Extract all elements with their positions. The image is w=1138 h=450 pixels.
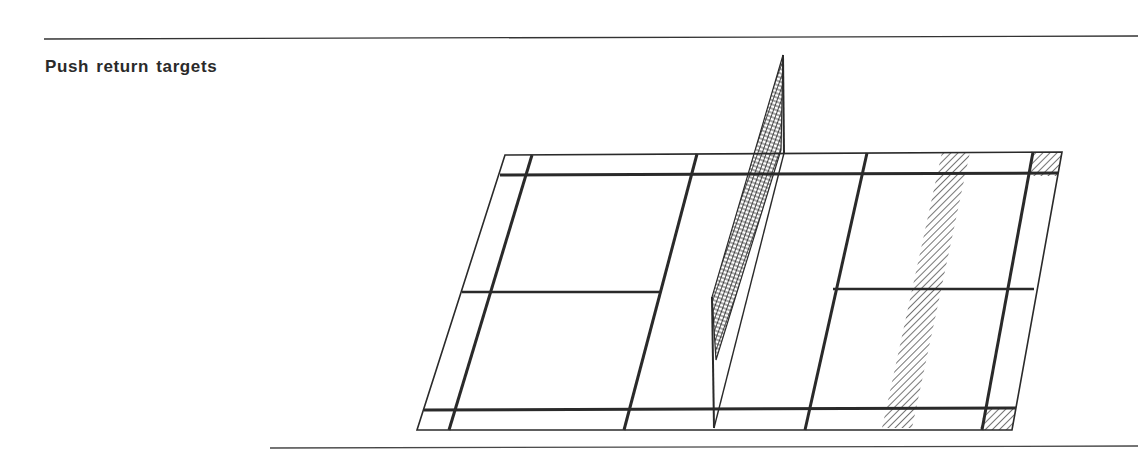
long-service-line-bottom xyxy=(424,408,1016,410)
short-service-line-right xyxy=(805,153,867,430)
net-mesh xyxy=(712,55,783,360)
bottom-rule xyxy=(270,446,1138,448)
singles-sideline-right xyxy=(982,152,1033,430)
court-diagram xyxy=(0,0,1138,450)
net-post-far xyxy=(783,55,784,153)
top-rule xyxy=(44,36,1138,39)
